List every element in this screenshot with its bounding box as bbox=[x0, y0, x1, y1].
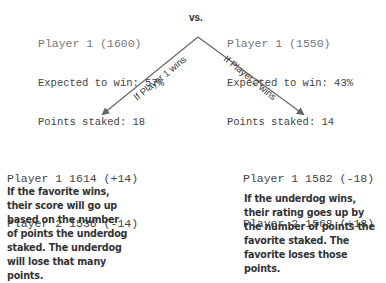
branch-right-label: If Player 2 wins bbox=[222, 53, 279, 102]
result-left-line1: Player 1 1614 (+14) bbox=[7, 171, 138, 186]
branch-arrows: If Player 1 wins If Player 2 wins bbox=[0, 0, 386, 140]
result-right-line1: Player 1 1582 (-18) bbox=[243, 171, 374, 186]
description-left: If the favorite wins, their score will g… bbox=[7, 185, 129, 283]
branch-left-label: If Player 1 wins bbox=[131, 53, 188, 102]
arrow-left bbox=[103, 37, 198, 114]
description-right: If the underdog wins, their rating goes … bbox=[244, 192, 379, 276]
